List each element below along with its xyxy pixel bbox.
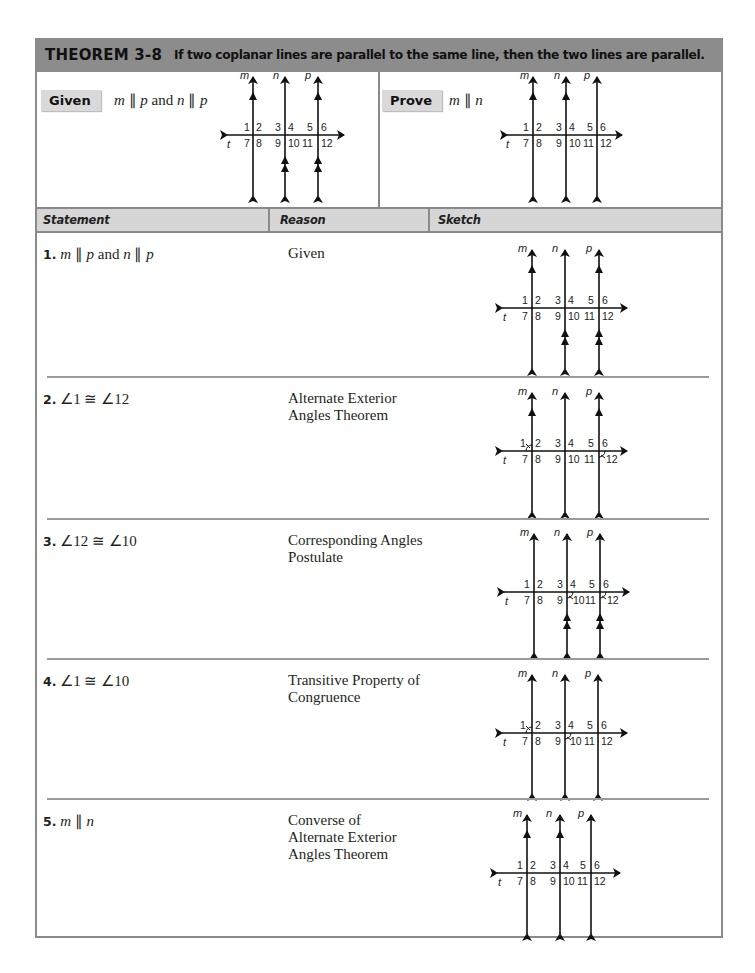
- svg-text:6: 6: [594, 859, 600, 871]
- given-prove-divider: [378, 72, 380, 207]
- svg-text:3: 3: [555, 294, 561, 306]
- svg-text:9: 9: [556, 137, 562, 149]
- svg-text:10: 10: [288, 137, 300, 149]
- statement-1: 1. m ∥ p and n ∥ p: [43, 245, 154, 263]
- svg-text:9: 9: [550, 875, 556, 887]
- svg-text:3: 3: [275, 121, 281, 133]
- svg-text:1: 1: [520, 719, 526, 731]
- sketch-3: mnp t 123456 789101112: [504, 525, 644, 660]
- svg-text:1: 1: [522, 294, 528, 306]
- header-statement: Statement: [43, 209, 110, 231]
- svg-text:11: 11: [584, 735, 595, 747]
- prove-diagram: mnp t 123456 789101112: [500, 68, 630, 203]
- svg-text:6: 6: [602, 437, 608, 449]
- svg-text:2: 2: [535, 437, 541, 449]
- svg-text:3: 3: [556, 121, 562, 133]
- sketch-4: mnp t 123456 789101112: [502, 666, 642, 801]
- svg-text:m: m: [513, 807, 522, 819]
- svg-text:p: p: [304, 69, 311, 81]
- svg-text:8: 8: [256, 137, 262, 149]
- svg-text:n: n: [554, 69, 560, 81]
- svg-text:5: 5: [588, 437, 594, 449]
- given-prove-section: Given m ∥ p and n ∥ p mnp t 123456 78910…: [37, 72, 721, 207]
- svg-text:m: m: [518, 667, 527, 679]
- theorem-statement: If two coplanar lines are parallel to th…: [174, 48, 705, 62]
- svg-text:8: 8: [535, 453, 541, 465]
- proof-row-3: 3. ∠12 ≅ ∠10 Corresponding Angles Postul…: [37, 520, 721, 658]
- svg-text:n: n: [552, 242, 558, 254]
- svg-text:t: t: [227, 138, 231, 150]
- svg-text:6: 6: [603, 578, 609, 590]
- svg-text:6: 6: [600, 121, 606, 133]
- statement-5: 5. m ∥ n: [43, 812, 94, 830]
- svg-text:m: m: [518, 385, 527, 397]
- header-divider: [268, 209, 270, 231]
- svg-text:p: p: [583, 69, 590, 81]
- svg-text:m: m: [518, 242, 527, 254]
- reason-5: Converse of Alternate Exterior Angles Th…: [288, 812, 408, 863]
- svg-text:11: 11: [585, 594, 596, 606]
- svg-text:2: 2: [537, 578, 543, 590]
- header-sketch: Sketch: [438, 209, 481, 231]
- svg-text:9: 9: [555, 735, 561, 747]
- svg-text:11: 11: [584, 310, 595, 322]
- svg-text:4: 4: [569, 121, 575, 133]
- sketch-1: mnp t 123456 789101112: [502, 241, 642, 376]
- svg-text:p: p: [585, 242, 592, 254]
- prove-text: m ∥ n: [449, 91, 483, 109]
- proof-table-header: Statement Reason Sketch: [37, 207, 721, 233]
- svg-text:p: p: [586, 526, 593, 538]
- svg-text:n: n: [273, 69, 279, 81]
- prove-label: Prove: [382, 90, 442, 111]
- svg-text:11: 11: [584, 453, 595, 465]
- svg-text:5: 5: [580, 859, 586, 871]
- svg-text:8: 8: [530, 875, 536, 887]
- svg-text:7: 7: [522, 453, 528, 465]
- svg-text:7: 7: [522, 310, 528, 322]
- svg-text:p: p: [584, 667, 591, 679]
- svg-text:4: 4: [568, 294, 574, 306]
- svg-text:3: 3: [550, 859, 556, 871]
- header-divider: [428, 209, 430, 231]
- svg-text:4: 4: [288, 121, 294, 133]
- proof-row-2: 2. ∠1 ≅ ∠12 Alternate Exterior Angles Th…: [37, 378, 721, 518]
- svg-text:12: 12: [600, 137, 612, 149]
- svg-text:t: t: [503, 454, 507, 466]
- svg-text:1: 1: [244, 121, 250, 133]
- svg-text:11: 11: [577, 875, 588, 887]
- svg-text:1: 1: [517, 859, 523, 871]
- svg-text:10: 10: [573, 594, 585, 606]
- svg-text:9: 9: [557, 594, 563, 606]
- svg-text:5: 5: [587, 121, 593, 133]
- reason-3: Corresponding Angles Postulate: [288, 532, 438, 566]
- svg-text:12: 12: [594, 875, 606, 887]
- svg-text:8: 8: [537, 594, 543, 606]
- svg-text:2: 2: [256, 121, 262, 133]
- reason-2: Alternate Exterior Angles Theorem: [288, 390, 438, 424]
- svg-text:m: m: [520, 526, 529, 538]
- svg-text:5: 5: [307, 121, 313, 133]
- svg-text:5: 5: [589, 578, 595, 590]
- svg-text:5: 5: [588, 294, 594, 306]
- svg-text:8: 8: [535, 310, 541, 322]
- svg-text:12: 12: [602, 310, 614, 322]
- svg-text:2: 2: [536, 121, 542, 133]
- svg-text:6: 6: [601, 719, 607, 731]
- svg-text:2: 2: [535, 294, 541, 306]
- given-label: Given: [41, 90, 101, 111]
- svg-text:n: n: [546, 807, 552, 819]
- given-diagram: mnp t 123456 789101112: [222, 68, 352, 203]
- svg-text:7: 7: [522, 735, 528, 747]
- svg-text:10: 10: [570, 735, 582, 747]
- svg-text:7: 7: [244, 137, 250, 149]
- svg-text:n: n: [554, 526, 560, 538]
- svg-text:n: n: [552, 667, 558, 679]
- svg-text:t: t: [503, 736, 507, 748]
- svg-text:4: 4: [570, 578, 576, 590]
- svg-text:t: t: [498, 876, 502, 888]
- svg-text:5: 5: [587, 719, 593, 731]
- svg-text:8: 8: [535, 735, 541, 747]
- svg-text:4: 4: [568, 719, 574, 731]
- svg-text:m: m: [240, 69, 249, 81]
- svg-text:m: m: [520, 69, 529, 81]
